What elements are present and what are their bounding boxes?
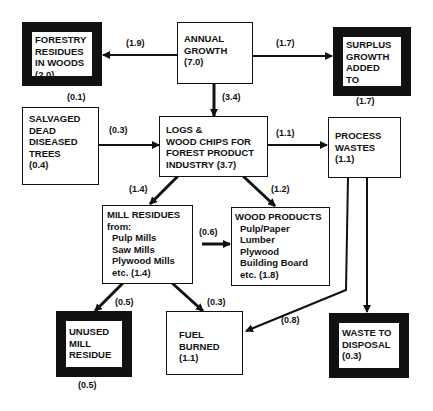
node-process-wastes: PROCESS WASTES (1.1) [328,117,401,178]
node-text: GROWTH [184,45,246,57]
node-unused-mill-residue: UNUSED MILL RESIDUE [56,311,132,377]
node-text: BURNED [179,341,230,353]
node-mill-residues: MILL RESIDUES from: Pulp Mills Saw Mills… [102,205,193,284]
node-text: (1.1) [335,153,394,165]
node-forestry-residues: FORESTRY RESIDUES IN WOODS (2.0) [22,22,102,86]
node-text: (0.3) [342,350,396,362]
node-fuel-burned: FUEL BURNED (1.1) [166,311,243,375]
node-text: etc. (1.4) [107,267,188,279]
node-text: etc. (1.8) [235,269,326,281]
node-text: TO [346,74,398,86]
flow-label-residues-note: (0.1) [67,92,86,102]
flow-label-mill-to-unused: (0.5) [115,297,134,307]
node-waste-disposal: WASTE TO DISPOSAL (0.3) [329,313,409,378]
node-text: (2.0) [35,69,89,81]
node-text: DEAD [29,125,92,137]
node-text: SURPLUS [346,39,398,51]
node-text: UNUSED [69,326,119,338]
node-text: FORESTS [346,85,398,97]
flow-label-logs-to-mill: (1.4) [129,184,148,194]
node-surplus-growth: SURPLUS GROWTH ADDED TO FORESTS [333,27,411,96]
node-annual-growth: ANNUAL GROWTH (7.0) [177,22,253,84]
node-text: (1.1) [179,352,230,364]
node-text: RESIDUE [69,349,119,361]
node-text: IN WOODS [35,57,89,69]
node-text: GROWTH [346,51,398,63]
flow-label-wastes-to-fuel: (0.8) [281,315,300,325]
node-text: DISPOSAL [342,339,396,351]
node-text: Saw Mills [107,244,188,256]
flow-label-growth-to-residues: (1.9) [126,38,145,48]
node-text: (0.4) [29,159,92,171]
node-text: Pulp/Paper [235,223,326,235]
flow-label-mill-to-products: (0.6) [199,227,218,237]
node-text: (7.0) [184,56,246,68]
node-text: SALVAGED [29,113,92,125]
node-text: WOOD CHIPS FOR [166,136,261,148]
node-text: from: [107,221,188,233]
flow-label-growth-to-logs: (3.4) [222,92,241,102]
node-text: PROCESS [335,130,394,142]
node-text: Pulp Mills [107,232,188,244]
flow-label-unused-total: (0.5) [78,380,97,390]
flow-label-mill-to-fuel: (0.3) [207,297,226,307]
flow-label-salvaged-to-logs: (0.3) [109,125,128,135]
node-text: FORESTRY [35,34,89,46]
node-text: WASTE TO [342,327,396,339]
node-text: LOGS & [166,124,261,136]
flow-label-logs-to-products: (1.2) [271,184,290,194]
node-text: MILL RESIDUES [107,209,188,221]
node-text: FOREST PRODUCT [166,147,261,159]
node-text: TREES [29,148,92,160]
node-text: Building Board [235,257,326,269]
node-text: INDUSTRY (3.7) [166,159,261,171]
node-salvaged-trees: SALVAGED DEAD DISEASED TREES (0.4) [22,107,99,185]
flow-label-logs-to-wastes: (1.1) [276,128,295,138]
node-text: ANNUAL [184,33,246,45]
flow-label-surplus-total: (1.7) [356,96,375,106]
node-text: ADDED [346,62,398,74]
arrow-logs-to-mill [150,176,178,204]
node-text: MILL [69,338,119,350]
node-text: Plywood Mills [107,255,188,267]
node-text: DISEASED [29,136,92,148]
wood-flow-diagram: FORESTRY RESIDUES IN WOODS (2.0) ANNUAL … [0,0,433,411]
node-text: WOOD PRODUCTS [235,211,326,223]
arrow-mill-to-fuel [172,283,203,311]
node-text: Plywood [235,246,326,258]
flow-label-growth-to-surplus: (1.7) [276,38,295,48]
node-text: WASTES [335,142,394,154]
node-text: FUEL [179,329,230,341]
node-wood-products: WOOD PRODUCTS Pulp/Paper Lumber Plywood … [231,207,330,286]
node-text: Lumber [235,234,326,246]
node-logs-chips: LOGS & WOOD CHIPS FOR FOREST PRODUCT IND… [159,116,268,177]
node-text: RESIDUES [35,46,89,58]
